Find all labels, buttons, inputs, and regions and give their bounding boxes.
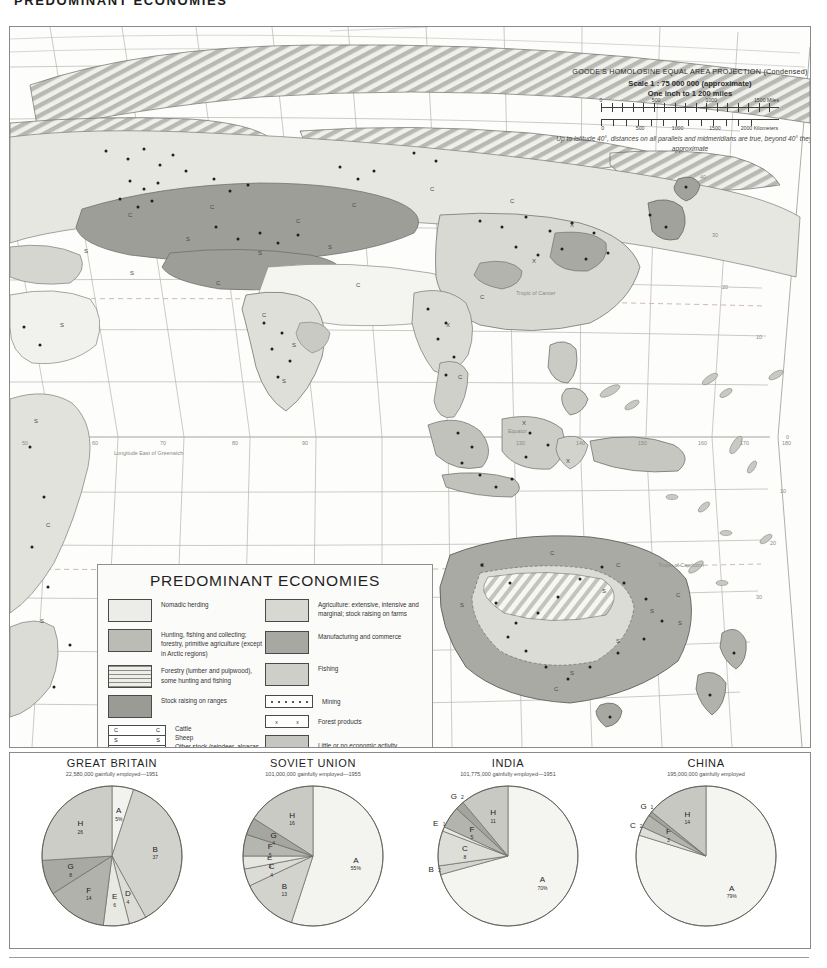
pie-slice-letter: A [116, 806, 122, 815]
legend-item-forest-products[interactable]: x x Forest products [265, 715, 422, 728]
legend-item-manufacturing[interactable]: Manufacturing and commerce [265, 631, 422, 654]
legend-label-fishing: Fishing [318, 663, 338, 673]
pie-slice-value: 1 [651, 804, 654, 810]
label-longitude-caption: Longitude East of Greenwich [114, 450, 183, 456]
legend-label-manufacturing: Manufacturing and commerce [318, 631, 401, 641]
legend-item-agriculture[interactable]: Agriculture: extensive, intensive and ma… [265, 599, 422, 622]
svg-text:C: C [510, 198, 515, 204]
pie-slice-letter: H [77, 819, 83, 828]
svg-text:70: 70 [160, 440, 166, 446]
svg-text:S: S [292, 342, 296, 348]
legend-item-stock-symbols[interactable]: C C S S V V Cattle [108, 725, 265, 748]
chart-title: SOVIET UNION [215, 757, 411, 769]
pie-slice-value: 3 [268, 863, 271, 869]
pie-slice-value: 79% [727, 893, 738, 899]
stock-row-cattle: C C [109, 726, 165, 736]
stock-symbol-labels: Cattle Sheep Other stock (reindeer, alpa… [175, 725, 265, 748]
svg-text:X: X [570, 222, 574, 228]
pie-slice-letter: A [353, 856, 359, 865]
swatch-fishing [265, 663, 309, 686]
label-equator: Equator [508, 428, 527, 434]
legend-item-fishing[interactable]: Fishing [265, 663, 422, 686]
svg-text:X: X [566, 458, 570, 464]
chart-soviet-union[interactable]: SOVIET UNION 101,000,000 gainfully emplo… [215, 757, 411, 943]
legend-label-little-activity: Little or no economic activity [318, 735, 397, 748]
swatch-hunting-fishing [108, 629, 152, 652]
pie-chart[interactable]: A55%B13C4E3F5G4H16 [238, 781, 388, 931]
pie-slice-letter: G [640, 802, 646, 811]
svg-text:S: S [570, 670, 574, 676]
pie-slice-letter: H [684, 810, 690, 819]
svg-text:S: S [130, 270, 134, 276]
stock-sym-cattle-right: C [156, 726, 160, 735]
svg-text:40: 40 [700, 174, 706, 180]
stock-sym-sheep-right: S [156, 736, 160, 745]
mining-dot [292, 701, 294, 703]
pie-slice-letter: G [451, 792, 457, 801]
chart-subtitle: 22,580,000 gainfully employed—1951 [14, 771, 210, 777]
legend-label-nomadic-herding: Nomadic herding [161, 599, 209, 609]
svg-text:X: X [522, 420, 526, 426]
svg-text:50: 50 [22, 440, 28, 446]
pie-slice-value: 13 [282, 891, 288, 897]
svg-text:S: S [84, 248, 88, 254]
svg-text:130: 130 [516, 440, 525, 446]
mining-dot [306, 701, 308, 703]
pie-slice-value: 70% [538, 885, 549, 891]
svg-text:20: 20 [722, 284, 728, 290]
svg-text:S: S [40, 618, 44, 624]
legend-column-right: Agriculture: extensive, intensive and ma… [265, 599, 422, 748]
pie-slice-value: 2 [461, 794, 464, 800]
svg-text:C: C [554, 686, 559, 692]
chart-title: GREAT BRITAIN [14, 757, 210, 769]
pie-slice-value: 55% [351, 865, 362, 871]
legend-item-mining[interactable]: Mining [265, 695, 422, 708]
svg-text:90: 90 [302, 440, 308, 446]
swatch-mining [265, 695, 313, 708]
svg-text:C: C [430, 186, 435, 192]
forest-x-mark: x [296, 719, 299, 725]
mining-dot [271, 701, 273, 703]
pie-slice-value: 5 [470, 834, 473, 840]
pie-chart[interactable]: A5%B37D4E6F14G8H26 [37, 781, 187, 931]
pie-slice-value: 37 [152, 854, 158, 860]
pie-wrap: A55%B13C4E3F5G4H16 [238, 781, 388, 931]
pie-slice-letter: F [86, 886, 91, 895]
pie-slice-value: 6 [113, 902, 116, 908]
pie-wrap: A70%B2C8E1F5G2H11 [433, 781, 583, 931]
legend-item-hunting-fishing[interactable]: Hunting, fishing and collecting; forestr… [108, 629, 265, 658]
legend-label-forest-products: Forest products [318, 715, 362, 726]
chart-subtitle: 101,000,000 gainfully employed—1955 [215, 771, 411, 777]
svg-text:C: C [676, 592, 681, 598]
svg-text:X: X [532, 258, 536, 264]
mining-dot [299, 701, 301, 703]
pie-slice-value: 14 [86, 895, 92, 901]
map-frame[interactable]: CCC SSS SCC CSS CCC XXC XCX XSS SCS CCC … [9, 26, 811, 748]
legend-label-mining: Mining [322, 695, 341, 706]
chart-india[interactable]: INDIA 101,775,000 gainfully employed—195… [410, 757, 606, 943]
svg-text:150: 150 [638, 440, 647, 446]
pie-slice-letter: H [289, 811, 295, 820]
legend-column-left: Nomadic herding Hunting, fishing and col… [108, 599, 265, 748]
chart-title: INDIA [410, 757, 606, 769]
chart-china[interactable]: CHINA 195,000,000 gainfully employed A79… [606, 757, 806, 943]
svg-text:S: S [328, 244, 332, 250]
svg-text:140: 140 [576, 440, 585, 446]
swatch-forest-products: x x [265, 715, 309, 728]
svg-text:C: C [352, 202, 357, 208]
stock-row-sheep: S S [109, 736, 165, 746]
svg-text:0: 0 [786, 434, 789, 440]
chart-subtitle: 195,000,000 gainfully employed [606, 771, 806, 777]
pie-slice-letter: E [112, 892, 117, 901]
pie-wrap: A79%C2F3G1H14 [631, 781, 781, 931]
chart-great-britain[interactable]: GREAT BRITAIN 22,580,000 gainfully emplo… [14, 757, 210, 943]
legend-item-forestry[interactable]: Forestry (lumber and pulpwood), some hun… [108, 665, 265, 688]
pie-slice-letter: B [153, 845, 158, 854]
legend-item-stock-raising-ranges[interactable]: Stock raising on ranges [108, 695, 265, 718]
pie-chart[interactable]: A79%C2F3G1H14 [631, 781, 781, 931]
pie-chart[interactable]: A70%B2C8E1F5G2H11 [433, 781, 583, 931]
svg-text:C: C [216, 280, 221, 286]
legend-item-nomadic-herding[interactable]: Nomadic herding [108, 599, 265, 622]
svg-text:170: 170 [740, 440, 749, 446]
legend-item-little-activity[interactable]: Little or no economic activity [265, 735, 422, 748]
